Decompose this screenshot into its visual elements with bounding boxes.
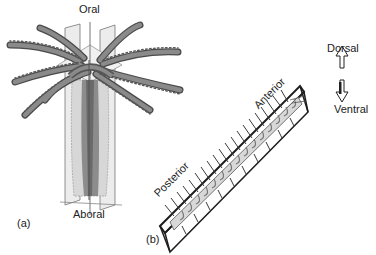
oral-label: Oral: [79, 4, 100, 15]
dorsal-label: Dorsal: [327, 43, 359, 54]
panel-a-label: (a): [17, 218, 30, 229]
ventral-label: Ventral: [334, 104, 368, 115]
ventral-arrow-icon: [336, 80, 348, 102]
panel-b-worm: [160, 46, 348, 252]
panel-b-label: (b): [146, 234, 159, 245]
aboral-label: Aboral: [73, 209, 105, 220]
diagram-canvas: [0, 0, 376, 255]
body-plan-figure: Oral Aboral (a) (b) Posterior Anterior D…: [0, 0, 376, 255]
